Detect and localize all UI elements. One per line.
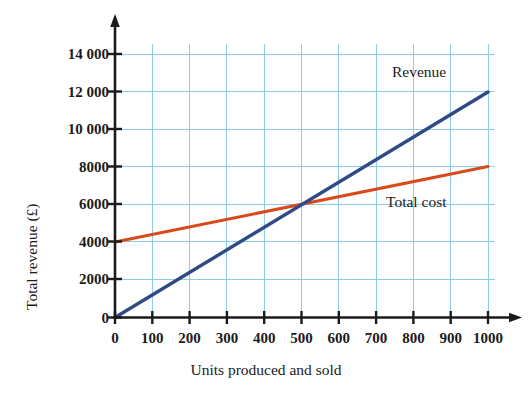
xtick-label-500: 500 — [290, 331, 313, 346]
x-axis-arrow-icon — [509, 313, 522, 323]
series-label-revenue: Revenue — [392, 64, 446, 80]
xtick-label-0: 0 — [111, 331, 119, 346]
series-label-total-cost: Total cost — [386, 194, 446, 210]
ytick-label-8000: 8000 — [79, 159, 109, 174]
ytick-label-6000: 6000 — [79, 197, 109, 212]
ytick-label-2000: 2000 — [79, 272, 109, 287]
ytick-label-4000: 4000 — [79, 234, 109, 249]
xtick-label-900: 900 — [439, 331, 462, 346]
y-axis-title: Total revenue (£) — [24, 50, 44, 310]
ytick-label-10000: 10 000 — [68, 122, 109, 137]
xtick-label-1000: 1000 — [473, 331, 503, 346]
xtick-label-700: 700 — [365, 331, 388, 346]
xtick-label-400: 400 — [253, 331, 276, 346]
ytick-label-14000: 14 000 — [68, 47, 109, 62]
axes — [113, 24, 512, 318]
xtick-label-200: 200 — [178, 331, 201, 346]
y-axis-arrow-icon — [110, 14, 120, 27]
chart-figure: 0 2000 4000 6000 8000 10 000 12 000 14 0… — [0, 0, 532, 402]
xtick-label-100: 100 — [141, 331, 164, 346]
grid-lines — [115, 44, 495, 318]
x-axis-title: Units produced and sold — [0, 362, 532, 378]
xtick-label-300: 300 — [216, 331, 239, 346]
xtick-label-600: 600 — [328, 331, 351, 346]
xtick-label-800: 800 — [402, 331, 425, 346]
ytick-label-0: 0 — [102, 310, 110, 325]
ytick-label-12000: 12 000 — [68, 84, 109, 99]
